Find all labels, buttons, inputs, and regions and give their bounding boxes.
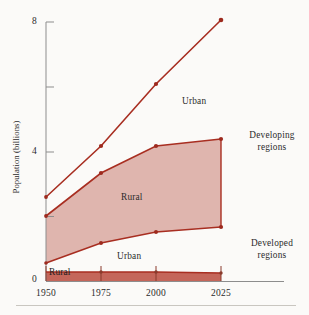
marker-developed-total-1975 (99, 241, 103, 245)
x-tick-label-2025: 2025 (201, 288, 241, 298)
marker-developing-rural-2025 (219, 137, 223, 141)
marker-developed-total-2025 (219, 225, 223, 229)
marker-developing-total-2000 (154, 82, 158, 86)
marker-developed-rural-2000 (154, 270, 157, 273)
developing-regions-line-2: regions (236, 142, 308, 154)
developed-regions-line-1: Developed (236, 238, 308, 250)
y-axis-title: Population (billions) (11, 97, 21, 217)
chart-canvas (0, 0, 309, 315)
annotation-rural-base: Rural (49, 267, 71, 277)
y-tick-label-8: 8 (32, 16, 37, 26)
bottom-divider-rule (16, 305, 296, 306)
marker-developing-rural-1975 (99, 171, 103, 175)
y-tick-label-0: 0 (32, 274, 37, 284)
annotation-rural-middle: Rural (121, 192, 143, 202)
marker-developing-total-1950 (44, 195, 48, 199)
annotation-developed-regions: Developed regions (236, 238, 308, 261)
x-tick-label-1950: 1950 (26, 288, 66, 298)
annotation-developing-regions: Developing regions (236, 130, 308, 153)
developing-regions-line-1: Developing (236, 130, 308, 142)
marker-developing-rural-1950 (44, 214, 48, 218)
marker-developed-total-1950 (44, 261, 48, 265)
y-tick-label-4: 4 (32, 146, 37, 156)
annotation-urban-upper: Urban (182, 96, 206, 106)
population-chart-figure: 8 4 0 Population (billions) 1950 1975 20… (0, 0, 309, 315)
marker-developed-rural-2025 (219, 271, 222, 274)
marker-developed-total-2000 (154, 230, 158, 234)
marker-developing-rural-2000 (154, 144, 158, 148)
marker-developing-total-2025 (219, 18, 224, 23)
marker-developing-total-1975 (99, 144, 103, 148)
x-tick-label-1975: 1975 (81, 288, 121, 298)
marker-developed-rural-1975 (99, 270, 102, 273)
developed-regions-line-2: regions (236, 250, 308, 262)
x-tick-label-2000: 2000 (136, 288, 176, 298)
annotation-urban-lower: Urban (117, 251, 141, 261)
